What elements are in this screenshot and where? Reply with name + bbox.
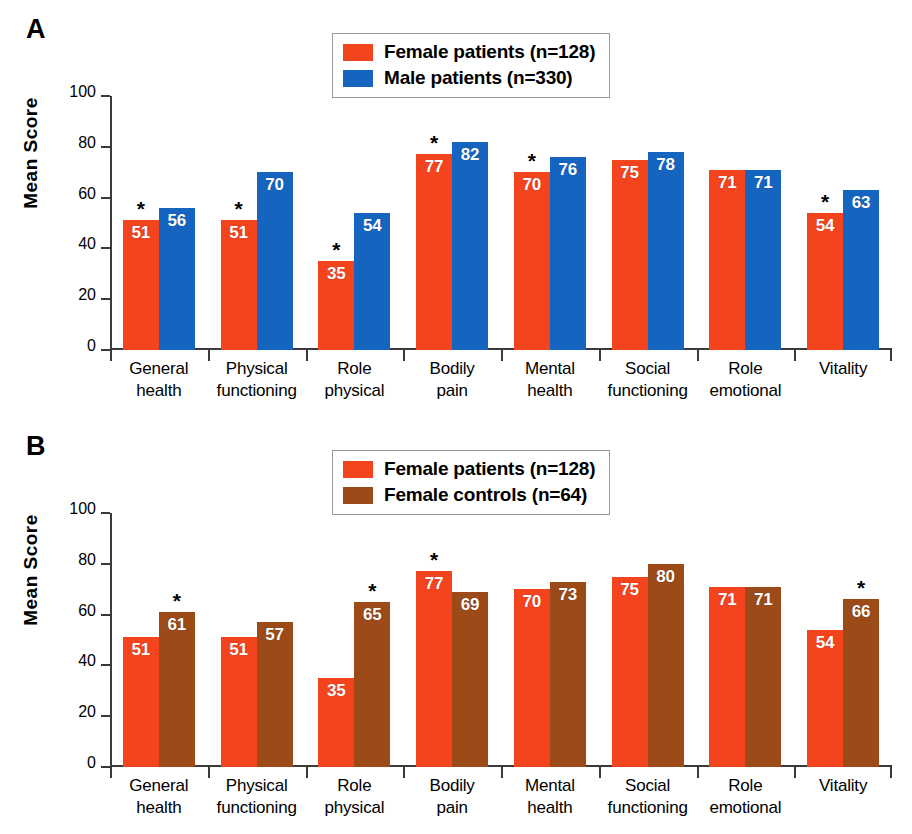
legend-swatch-female-patients [343,44,373,61]
panel-b-y-axis-label: Mean Score [20,505,42,635]
bar[interactable]: 51* [221,220,257,350]
panel-b-plot-area: 020406080100 5161*51573565*77*6970737580… [110,513,892,767]
bar[interactable]: 69 [452,592,488,767]
legend-item: Female controls (n=64) [343,482,595,508]
legend-label-female-patients: Female patients (n=128) [384,458,595,480]
bar[interactable]: 77* [416,571,452,767]
figure-sf36-mean-scores: A Female patients (n=128) Male patients … [0,0,912,834]
bar-group: 7580 [599,513,697,767]
bar[interactable]: 77* [416,154,452,350]
bar-pair: 77*82 [416,96,488,350]
bar[interactable]: 54 [354,213,390,350]
bar[interactable]: 56 [159,208,195,350]
bar-value-label: 56 [159,212,195,229]
panel-a-plot-area: 020406080100 51*5651*7035*5477*8270*7675… [110,96,892,350]
x-axis-category-label: Bodily pain [403,358,501,402]
bar[interactable]: 71 [709,587,745,767]
bar[interactable]: 71 [709,170,745,350]
bar[interactable]: 66* [843,599,879,767]
bar[interactable]: 82 [452,142,488,350]
bar[interactable]: 80 [648,564,684,767]
significance-asterisk: * [807,191,843,212]
bar[interactable]: 65* [354,602,390,767]
bar-value-label: 71 [709,174,745,191]
bar[interactable]: 63 [843,190,879,350]
bar-value-label: 65 [354,606,390,623]
bar-pair: 3565* [318,513,390,767]
bar-pair: 51*70 [221,96,293,350]
panel-b: B Female patients (n=128) Female control… [0,417,912,834]
bar-group: 5466* [794,513,892,767]
bar-pair: 7171 [709,513,781,767]
bar[interactable]: 70 [257,172,293,350]
bar[interactable]: 71 [745,170,781,350]
bar-group: 3565* [306,513,404,767]
x-axis-category-label: Role emotional [697,775,795,819]
bar-value-label: 70 [514,176,550,193]
significance-asterisk: * [416,132,452,153]
bar[interactable]: 54 [807,630,843,767]
y-axis-tick-label: 20 [78,704,96,720]
x-axis-category-label: Social functioning [599,358,697,402]
bar[interactable]: 35 [318,678,354,767]
y-axis-tick: 20 [101,298,110,300]
bar-pair: 7073 [514,513,586,767]
significance-asterisk: * [159,590,195,611]
panel-a-legend: Female patients (n=128) Male patients (n… [332,33,610,98]
x-axis-category-label: General health [110,358,208,402]
y-axis-tick: 80 [101,146,110,148]
legend-label-female-controls: Female controls (n=64) [384,484,587,506]
bar[interactable]: 70* [514,172,550,350]
bar[interactable]: 73 [550,582,586,767]
bar-value-label: 51 [123,224,159,241]
bar-value-label: 54 [807,634,843,651]
bar-group: 51*70 [208,96,306,350]
bar-value-label: 69 [452,596,488,613]
bar-group: 5157 [208,513,306,767]
bar-group: 7578 [599,96,697,350]
significance-asterisk: * [514,150,550,171]
bar-value-label: 71 [745,174,781,191]
bar[interactable]: 61* [159,612,195,767]
bar-value-label: 77 [416,158,452,175]
y-axis-tick: 100 [101,95,110,97]
bar[interactable]: 51 [123,637,159,767]
bar-group: 7171 [697,513,795,767]
legend-item: Female patients (n=128) [343,39,595,65]
significance-asterisk: * [416,549,452,570]
bar[interactable]: 54* [807,213,843,350]
bar[interactable]: 57 [257,622,293,767]
x-axis-category-label: Mental health [501,358,599,402]
bar-pair: 5157 [221,513,293,767]
y-axis-tick-label: 20 [78,287,96,303]
y-axis-tick: 60 [101,614,110,616]
panel-a-y-axis-label: Mean Score [20,88,42,218]
significance-asterisk: * [318,239,354,260]
x-axis-category-label: Role physical [306,775,404,819]
bar[interactable]: 70 [514,589,550,767]
y-axis-tick-label: 100 [69,84,96,100]
bar[interactable]: 51 [221,637,257,767]
significance-asterisk: * [354,580,390,601]
bar[interactable]: 75 [612,577,648,768]
panel-a-bar-groups: 51*5651*7035*5477*8270*767578717154*63 [110,96,892,350]
panel-a: A Female patients (n=128) Male patients … [0,0,912,417]
bar-value-label: 66 [843,603,879,620]
bar-value-label: 51 [123,641,159,658]
bar-pair: 7580 [612,513,684,767]
bar-value-label: 71 [745,591,781,608]
bar[interactable]: 76 [550,157,586,350]
bar-pair: 35*54 [318,96,390,350]
legend-item: Female patients (n=128) [343,456,595,482]
bar[interactable]: 35* [318,261,354,350]
x-axis-category-label: Physical functioning [208,358,306,402]
bar[interactable]: 75 [612,160,648,351]
bar[interactable]: 51* [123,220,159,350]
bar-pair: 5161* [123,513,195,767]
bar[interactable]: 78 [648,152,684,350]
y-axis-tick-label: 60 [78,603,96,619]
legend-item: Male patients (n=330) [343,65,595,91]
bar[interactable]: 71 [745,587,781,767]
bar-value-label: 78 [648,156,684,173]
bar-group: 54*63 [794,96,892,350]
